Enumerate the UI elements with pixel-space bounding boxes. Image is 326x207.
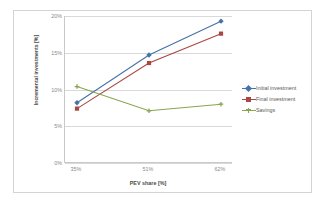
- legend-marker-icon: [242, 106, 256, 115]
- gridline: [65, 163, 232, 164]
- x-axis-tick-label: 35%: [56, 166, 96, 172]
- y-axis-tick-label: 10%: [38, 87, 62, 93]
- x-axis-tick-label: 51%: [128, 166, 168, 172]
- legend-marker-icon: [242, 95, 256, 104]
- y-axis-tick-label: 5%: [38, 123, 62, 129]
- chart-frame: Incremental investments [%] 0%5%10%15%20…: [13, 10, 312, 193]
- chart-screenshot: Incremental investments [%] 0%5%10%15%20…: [0, 0, 326, 207]
- chart-series-svg: [65, 16, 233, 163]
- legend-item[interactable]: Initial investment: [242, 83, 312, 94]
- legend-item-label: Savings: [256, 106, 275, 115]
- y-axis-tick-label: 15%: [38, 50, 62, 56]
- data-point-marker: [75, 107, 79, 111]
- legend-marker-icon: [242, 84, 256, 93]
- legend-item[interactable]: Final investment: [242, 94, 312, 105]
- data-point-marker: [219, 102, 224, 107]
- data-point-marker: [147, 109, 152, 114]
- y-axis-tick-label: 20%: [38, 13, 62, 19]
- y-axis-tick-labels: 0%5%10%15%20%: [34, 11, 62, 192]
- series-line: [77, 87, 221, 111]
- legend-item[interactable]: Savings: [242, 105, 312, 116]
- plot-area: [64, 16, 232, 163]
- legend-item-label: Initial investment: [256, 84, 296, 93]
- x-axis-tick-label: 62%: [200, 166, 240, 172]
- data-point-marker: [147, 61, 151, 65]
- data-point-marker: [218, 18, 223, 23]
- data-point-marker: [219, 32, 223, 36]
- legend-item-label: Final investment: [256, 95, 295, 104]
- x-axis-title: PEV share [%]: [64, 180, 232, 186]
- data-point-marker: [75, 84, 80, 89]
- chart-legend: Initial investmentFinal investmentSaving…: [242, 83, 312, 116]
- series-line: [77, 34, 221, 109]
